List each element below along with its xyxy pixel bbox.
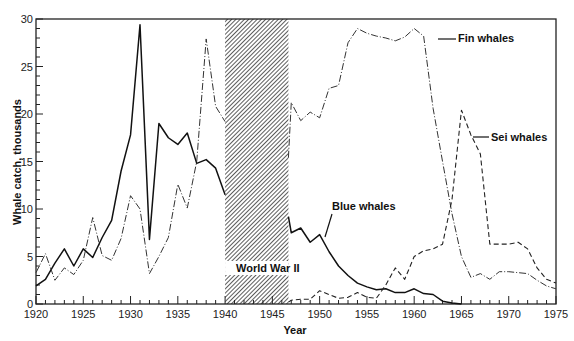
x-tick-label: 1925: [71, 308, 95, 320]
y-tick-label: 0: [27, 298, 33, 310]
label-world-war-ii: World War II: [236, 262, 300, 274]
x-tick-label: 1970: [496, 308, 520, 320]
y-tick-label: 30: [21, 13, 33, 25]
blue-whales-line: [288, 217, 461, 304]
x-tick-label: 1930: [118, 308, 142, 320]
fin-whales-line: [36, 39, 225, 280]
x-axis-title: Year: [283, 324, 307, 336]
y-tick-label: 25: [21, 61, 33, 73]
x-tick-label: 1935: [166, 308, 190, 320]
x-tick-label: 1960: [402, 308, 426, 320]
x-tick-label: 1975: [544, 308, 568, 320]
label-fin-whales: Fin whales: [458, 32, 514, 44]
x-tick-label: 1965: [449, 308, 473, 320]
whale-catch-chart: 1920192519301935194019451950195519601965…: [0, 0, 574, 341]
label-blue-whales: Blue whales: [332, 200, 396, 212]
y-tick-label: 5: [27, 251, 33, 263]
y-axis-title: Whale catch, thousands: [11, 99, 23, 225]
y-axis: 051015202530: [21, 13, 43, 310]
x-tick-label: 1955: [355, 308, 379, 320]
x-tick-label: 1945: [260, 308, 284, 320]
label-sei-whales: Sei whales: [491, 131, 547, 143]
x-tick-label: 1950: [307, 308, 331, 320]
x-tick-label: 1940: [213, 308, 237, 320]
blue-leader-line: [325, 214, 332, 237]
